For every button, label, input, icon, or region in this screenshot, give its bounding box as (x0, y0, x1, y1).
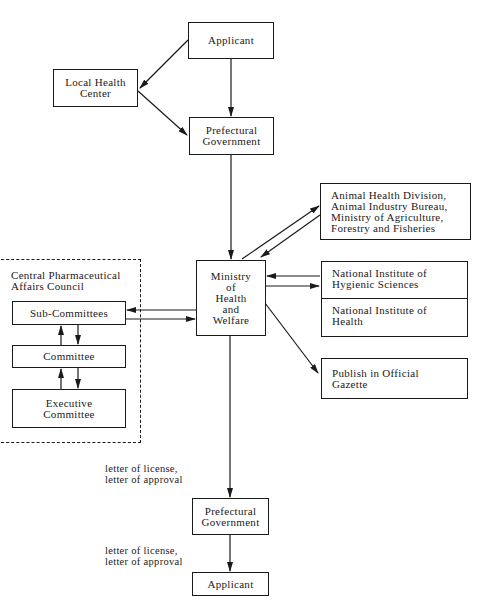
edge-label-line: letter of license, (105, 545, 183, 556)
edge-animal-health-to-ministry (261, 215, 320, 257)
node-label: Sub-Committees (30, 308, 108, 319)
node-local-health-center: Local Health Center (53, 69, 138, 107)
node-label: Forestry and Fisheries (331, 223, 435, 234)
edge-ministry-to-animal-health (242, 206, 319, 259)
node-national-institute-of-hygienic-sciences: National Institute of Hygienic Sciences (322, 262, 467, 299)
node-national-institute-of-health: National Institute of Health (322, 299, 467, 336)
node-executive-committee: Executive Committee (12, 389, 126, 428)
node-committee: Committee (12, 345, 126, 368)
node-label: Hygienic Sciences (332, 279, 467, 290)
node-national-institutes: National Institute of Hygienic Sciences … (321, 261, 468, 337)
node-prefectural-government-bottom: Prefectural Government (192, 498, 269, 535)
edge-label-line: letter of approval (105, 474, 183, 485)
edge-label-line: letter of approval (105, 556, 183, 567)
edge-applicant-to-local-health-center (140, 40, 188, 88)
node-label: Executive (46, 398, 93, 409)
edge-label-line: letter of license, (105, 463, 183, 474)
node-publish-in-official-gazette: Publish in Official Gazette (321, 358, 468, 399)
node-label: of (226, 282, 236, 293)
node-label: Ministry (211, 271, 251, 282)
council-title: Central Pharmaceutical Affairs Council (11, 270, 121, 292)
node-label: Welfare (213, 315, 250, 326)
edge-ministry-to-gazette (265, 303, 318, 373)
node-label: Animal Industry Bureau, (331, 201, 448, 212)
node-label: Center (80, 88, 111, 99)
edge-local-health-to-prefectural (138, 91, 187, 135)
node-label: Prefectural (205, 506, 257, 517)
node-label: Government (202, 517, 260, 528)
node-label: Committee (43, 409, 95, 420)
node-label: Applicant (207, 579, 253, 590)
node-label: Health (215, 293, 246, 304)
node-label: Government (203, 136, 261, 147)
node-label: Committee (43, 351, 95, 362)
edge-label-prefectural-to-applicant: letter of license, letter of approval (105, 545, 183, 567)
node-prefectural-government-top: Prefectural Government (189, 117, 274, 155)
node-applicant-top: Applicant (188, 22, 274, 59)
node-applicant-bottom: Applicant (192, 572, 269, 596)
node-label: Ministry of Agriculture, (331, 212, 444, 223)
node-label: Publish in Official (332, 368, 419, 379)
node-ministry-of-health-and-welfare: Ministry of Health and Welfare (196, 260, 266, 336)
node-label: and (223, 304, 240, 315)
node-label: Applicant (208, 35, 254, 46)
council-title-line: Affairs Council (11, 281, 121, 292)
node-sub-committees: Sub-Committees (12, 301, 126, 325)
node-label: Health (332, 316, 467, 327)
edge-label-ministry-to-prefectural: letter of license, letter of approval (105, 463, 183, 485)
node-label: Animal Health Division, (331, 190, 446, 201)
node-animal-health-division: Animal Health Division, Animal Industry … (320, 183, 471, 240)
node-label: Gazette (332, 379, 368, 390)
